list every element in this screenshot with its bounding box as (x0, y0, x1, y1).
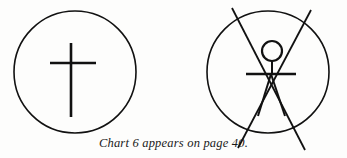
figure-sheet: Chart 6 appears on page 40. (0, 0, 347, 158)
figure-illustration (0, 0, 347, 158)
figure-right-circle-with-stick-figure (207, 8, 329, 150)
figure-left-circle-with-cross (14, 11, 136, 133)
stick-figure-leg-right (271, 74, 285, 116)
left-outer-circle (14, 11, 136, 133)
right-outer-circle (207, 11, 329, 133)
stick-figure-head (262, 41, 282, 61)
stick-figure-leg-left (258, 74, 271, 116)
diagonal-stroke-right-to-left (238, 10, 311, 148)
figure-caption: Chart 6 appears on page 40. (0, 136, 347, 151)
